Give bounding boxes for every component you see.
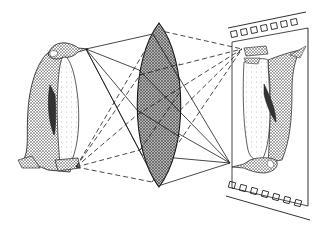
top-sprocket-holes bbox=[230, 18, 297, 37]
inverted-penguin-image bbox=[232, 46, 306, 173]
lens-diagram bbox=[0, 0, 321, 233]
convex-lens bbox=[137, 23, 181, 187]
bottom-sprocket-holes bbox=[228, 181, 301, 206]
penguin-object bbox=[18, 43, 88, 172]
